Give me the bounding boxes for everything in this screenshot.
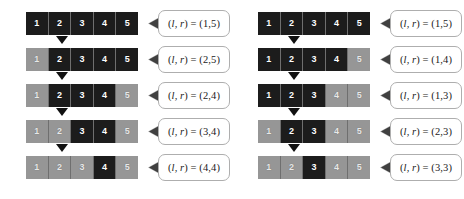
array-cell-5[interactable]: 5 — [116, 156, 138, 179]
down-arrow-icon — [288, 72, 300, 80]
array-cell-5[interactable]: 5 — [116, 48, 138, 71]
interval-label: (l, r) = (1,4) — [400, 54, 452, 65]
array-cell-1[interactable]: 1 — [258, 120, 281, 143]
array-cell-2[interactable]: 2 — [49, 84, 72, 107]
interval-row: 12345(l, r) = (3,3) — [258, 156, 458, 179]
callout: (l, r) = (4,4) — [148, 154, 230, 181]
callout: (l, r) = (1,4) — [380, 46, 462, 73]
callout: (l, r) = (2,5) — [148, 46, 230, 73]
interval-row: 12345(l, r) = (1,5) — [258, 12, 458, 35]
array-cell-5[interactable]: 5 — [116, 12, 138, 35]
callout-bubble: (l, r) = (2,5) — [158, 46, 230, 73]
array-cell-1[interactable]: 1 — [26, 12, 49, 35]
array-cell-2[interactable]: 2 — [49, 48, 72, 71]
interval-narrowing-figure: 12345(l, r) = (1,5)12345(l, r) = (2,5)12… — [0, 0, 464, 199]
array-cell-5[interactable]: 5 — [116, 84, 138, 107]
interval-row: 12345(l, r) = (2,4) — [26, 84, 226, 107]
array-bar: 12345 — [26, 84, 138, 107]
down-arrow-icon — [288, 144, 300, 152]
array-cell-2[interactable]: 2 — [281, 48, 304, 71]
array-cell-5[interactable]: 5 — [348, 12, 370, 35]
array-cell-2[interactable]: 2 — [49, 12, 72, 35]
array-cell-5[interactable]: 5 — [348, 120, 370, 143]
array-cell-1[interactable]: 1 — [258, 84, 281, 107]
array-cell-3[interactable]: 3 — [303, 156, 326, 179]
callout-bubble: (l, r) = (3,3) — [390, 154, 462, 181]
array-bar: 12345 — [258, 84, 370, 107]
left-column: 12345(l, r) = (1,5)12345(l, r) = (2,5)12… — [0, 0, 232, 199]
array-cell-2[interactable]: 2 — [281, 156, 304, 179]
down-arrow-icon — [288, 108, 300, 116]
array-cell-1[interactable]: 1 — [26, 48, 49, 71]
down-arrow-icon — [288, 36, 300, 44]
interval-label: (l, r) = (2,5) — [168, 54, 220, 65]
right-column: 12345(l, r) = (1,5)12345(l, r) = (1,4)12… — [232, 0, 464, 199]
callout: (l, r) = (2,3) — [380, 118, 462, 145]
interval-row: 12345(l, r) = (2,5) — [26, 48, 226, 71]
array-bar: 12345 — [258, 48, 370, 71]
array-cell-1[interactable]: 1 — [258, 156, 281, 179]
interval-row: 12345(l, r) = (3,4) — [26, 120, 226, 143]
array-cell-1[interactable]: 1 — [258, 48, 281, 71]
array-cell-4[interactable]: 4 — [326, 156, 349, 179]
interval-label: (l, r) = (1,3) — [400, 90, 452, 101]
array-cell-3[interactable]: 3 — [303, 120, 326, 143]
callout: (l, r) = (3,4) — [148, 118, 230, 145]
array-cell-3[interactable]: 3 — [303, 84, 326, 107]
array-cell-2[interactable]: 2 — [281, 12, 304, 35]
callout-bubble: (l, r) = (1,5) — [390, 10, 462, 37]
array-cell-4[interactable]: 4 — [326, 84, 349, 107]
callout: (l, r) = (2,4) — [148, 82, 230, 109]
array-cell-4[interactable]: 4 — [94, 156, 117, 179]
interval-label: (l, r) = (4,4) — [168, 162, 220, 173]
array-cell-1[interactable]: 1 — [26, 120, 49, 143]
array-cell-2[interactable]: 2 — [49, 120, 72, 143]
array-cell-3[interactable]: 3 — [71, 48, 94, 71]
array-cell-2[interactable]: 2 — [281, 120, 304, 143]
array-cell-1[interactable]: 1 — [26, 156, 49, 179]
array-cell-3[interactable]: 3 — [71, 84, 94, 107]
array-cell-4[interactable]: 4 — [94, 12, 117, 35]
callout-bubble: (l, r) = (4,4) — [158, 154, 230, 181]
array-cell-4[interactable]: 4 — [94, 84, 117, 107]
array-cell-2[interactable]: 2 — [281, 84, 304, 107]
array-cell-5[interactable]: 5 — [116, 120, 138, 143]
array-cell-4[interactable]: 4 — [94, 120, 117, 143]
interval-row: 12345(l, r) = (1,3) — [258, 84, 458, 107]
callout-bubble: (l, r) = (3,4) — [158, 118, 230, 145]
callout-bubble: (l, r) = (1,5) — [158, 10, 230, 37]
callout-bubble: (l, r) = (2,4) — [158, 82, 230, 109]
callout: (l, r) = (1,3) — [380, 82, 462, 109]
array-bar: 12345 — [26, 48, 138, 71]
interval-row: 12345(l, r) = (4,4) — [26, 156, 226, 179]
callout-bubble: (l, r) = (2,3) — [390, 118, 462, 145]
array-cell-5[interactable]: 5 — [348, 156, 370, 179]
array-cell-2[interactable]: 2 — [49, 156, 72, 179]
array-bar: 12345 — [26, 120, 138, 143]
array-cell-3[interactable]: 3 — [303, 12, 326, 35]
array-cell-4[interactable]: 4 — [94, 48, 117, 71]
callout-bubble: (l, r) = (1,4) — [390, 46, 462, 73]
array-cell-5[interactable]: 5 — [348, 48, 370, 71]
down-arrow-icon — [56, 72, 68, 80]
callout-bubble: (l, r) = (1,3) — [390, 82, 462, 109]
array-cell-1[interactable]: 1 — [26, 84, 49, 107]
array-bar: 12345 — [26, 156, 138, 179]
array-cell-4[interactable]: 4 — [326, 48, 349, 71]
array-cell-5[interactable]: 5 — [348, 84, 370, 107]
array-cell-4[interactable]: 4 — [326, 120, 349, 143]
array-cell-3[interactable]: 3 — [71, 120, 94, 143]
interval-row: 12345(l, r) = (2,3) — [258, 120, 458, 143]
array-cell-3[interactable]: 3 — [71, 156, 94, 179]
interval-label: (l, r) = (2,3) — [400, 126, 452, 137]
callout: (l, r) = (1,5) — [148, 10, 230, 37]
array-cell-3[interactable]: 3 — [303, 48, 326, 71]
interval-label: (l, r) = (2,4) — [168, 90, 220, 101]
down-arrow-icon — [56, 144, 68, 152]
interval-label: (l, r) = (1,5) — [400, 18, 452, 29]
array-cell-4[interactable]: 4 — [326, 12, 349, 35]
array-cell-3[interactable]: 3 — [71, 12, 94, 35]
array-bar: 12345 — [258, 156, 370, 179]
down-arrow-icon — [56, 36, 68, 44]
array-cell-1[interactable]: 1 — [258, 12, 281, 35]
